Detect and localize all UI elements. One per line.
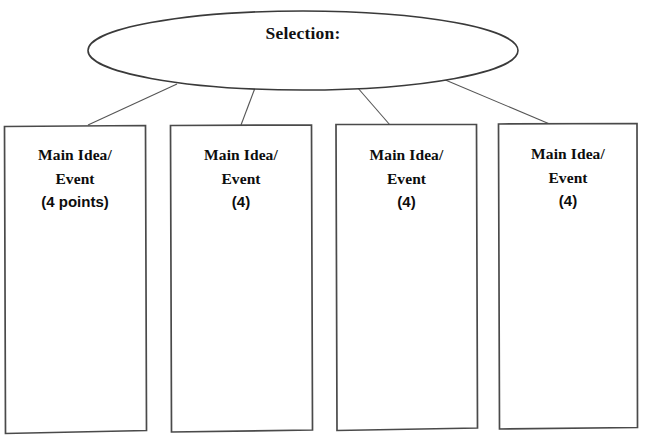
main-idea-box-3[interactable] xyxy=(336,125,478,431)
topic-label: Selection: xyxy=(88,23,518,43)
diagram-shapes xyxy=(0,0,649,447)
main-idea-box-2[interactable] xyxy=(171,125,313,432)
graphic-organizer-canvas: Selection: Main Idea/ Event (4 points) M… xyxy=(0,0,649,447)
main-idea-box-4[interactable] xyxy=(499,124,638,430)
main-idea-box-1[interactable] xyxy=(5,126,147,434)
connector-line-4 xyxy=(443,79,552,125)
connector-line-2 xyxy=(241,88,255,125)
connector-line-1 xyxy=(88,84,177,125)
connector-line-3 xyxy=(357,87,390,125)
